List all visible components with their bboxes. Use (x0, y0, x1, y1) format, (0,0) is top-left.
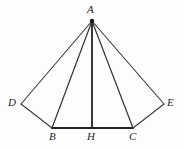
segment-AE (92, 21, 164, 104)
vertex-label-E: E (167, 97, 174, 108)
segments-group (21, 21, 164, 128)
segment-DB (21, 104, 52, 128)
segment-CE (133, 104, 164, 128)
geometry-figure: A D E B H C (0, 0, 184, 149)
vertex-label-B: B (49, 131, 56, 142)
segment-AC (92, 21, 133, 128)
vertex-label-D: D (8, 97, 16, 108)
segment-AD (21, 21, 92, 104)
vertex-label-A: A (87, 4, 94, 15)
apex-point-marker (90, 19, 94, 23)
segment-AB (52, 21, 92, 128)
vertex-label-C: C (129, 131, 136, 142)
geometry-canvas (0, 0, 184, 149)
vertex-label-H: H (87, 131, 95, 142)
